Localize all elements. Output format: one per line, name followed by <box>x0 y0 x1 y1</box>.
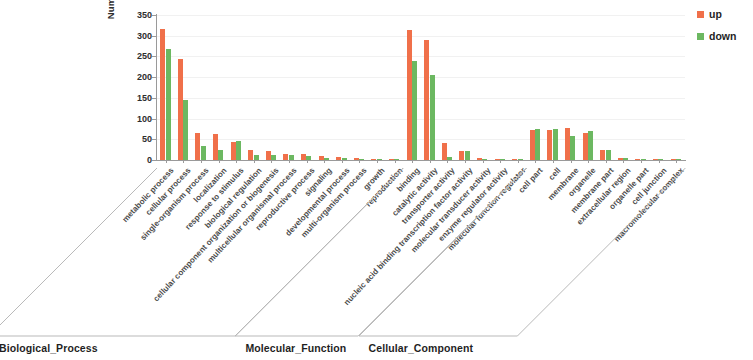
y-tick-label: 300 <box>124 31 152 41</box>
y-tick-label: 250 <box>124 51 152 61</box>
bar-up[interactable] <box>178 59 183 160</box>
legend-label-down: down <box>709 30 736 42</box>
legend: up down <box>697 8 736 52</box>
chart-root: Number of genes 050100150200250300350 me… <box>0 0 753 360</box>
y-tick-label: 200 <box>124 72 152 82</box>
category-group-label: Cellular_Component <box>369 342 473 354</box>
bar-up[interactable] <box>565 128 570 160</box>
y-axis-title: Number of genes <box>105 0 116 34</box>
bar-group <box>407 15 419 160</box>
bar-up[interactable] <box>160 29 165 160</box>
x-tick-label: macromolecular complex <box>679 95 752 173</box>
bar-down[interactable] <box>570 136 575 160</box>
y-tick-label: 100 <box>124 114 152 124</box>
category-group-label: Molecular_Function <box>245 342 346 354</box>
bar-up[interactable] <box>407 30 412 161</box>
legend-item-up[interactable]: up <box>697 8 736 20</box>
legend-swatch-up <box>697 11 704 18</box>
y-tick-label: 50 <box>124 134 152 144</box>
category-bracket <box>359 168 705 340</box>
bar-group <box>160 15 172 160</box>
y-tick-label: 150 <box>124 93 152 103</box>
bar-group <box>618 15 630 160</box>
category-group-label: Biological_Process <box>0 342 98 354</box>
x-tick-mark <box>166 160 167 163</box>
legend-label-up: up <box>709 8 722 20</box>
y-tick-label: 350 <box>124 10 152 20</box>
legend-swatch-down <box>697 33 704 40</box>
legend-item-down[interactable]: down <box>697 30 736 42</box>
bar-group <box>442 15 454 160</box>
bar-group <box>178 15 190 160</box>
y-tick-label: 0 <box>124 155 152 165</box>
bar-down[interactable] <box>166 49 171 160</box>
